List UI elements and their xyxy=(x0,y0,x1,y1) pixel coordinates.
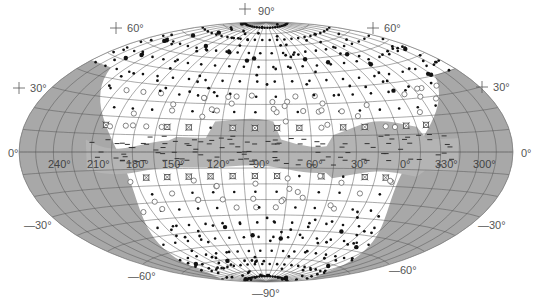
filled-dot-symbol xyxy=(255,74,258,77)
filled-dot-symbol xyxy=(284,54,287,57)
filled-dot-symbol xyxy=(220,35,223,38)
filled-dot-symbol xyxy=(228,236,231,239)
filled-dot-symbol xyxy=(293,250,296,253)
dash-marker xyxy=(273,151,278,152)
dash-marker xyxy=(298,160,303,161)
open-circle-symbol xyxy=(415,86,420,91)
dash-marker xyxy=(172,152,177,153)
filled-dot-symbol xyxy=(108,84,111,87)
filled-dot-symbol xyxy=(315,49,318,52)
boxed-cross-symbol xyxy=(340,124,347,131)
lon-label-210: 210° xyxy=(87,158,110,170)
boxed-cross-symbol xyxy=(229,124,236,131)
filled-dot-symbol xyxy=(239,264,242,267)
filled-dot-symbol xyxy=(325,48,328,51)
filled-dot-symbol xyxy=(150,39,153,42)
filled-dot-symbol xyxy=(325,223,328,226)
filled-dot-symbol xyxy=(316,64,319,67)
filled-dot-symbol xyxy=(254,256,257,259)
dash-marker xyxy=(220,147,225,148)
dash-marker xyxy=(125,144,130,145)
open-circle-symbol xyxy=(273,205,278,210)
filled-dot-symbol xyxy=(351,208,354,211)
dash-marker xyxy=(161,147,166,148)
filled-dot-symbol xyxy=(178,93,181,96)
dash-marker xyxy=(365,143,370,144)
open-circle-symbol xyxy=(141,89,146,94)
filled-dot-symbol xyxy=(276,263,279,266)
filled-dot-symbol xyxy=(314,207,317,210)
filled-dot-symbol xyxy=(345,52,349,56)
dash-marker xyxy=(385,135,390,136)
dash-marker xyxy=(314,141,319,142)
dash-marker xyxy=(416,135,421,136)
lat-label-plus-90: 90° xyxy=(252,5,275,17)
dash-marker xyxy=(153,149,158,150)
filled-dot-symbol xyxy=(313,94,316,97)
filled-dot-symbol xyxy=(386,50,389,53)
filled-dot-symbol xyxy=(228,250,231,253)
filled-dot-symbol xyxy=(239,222,242,225)
filled-dot-symbol xyxy=(204,79,207,82)
filled-dot-symbol xyxy=(204,44,208,48)
dash-marker xyxy=(237,152,242,153)
open-circle-symbol xyxy=(279,199,284,204)
filled-dot-symbol xyxy=(142,73,145,76)
dash-marker xyxy=(193,151,198,152)
filled-dot-symbol xyxy=(257,32,260,35)
filled-dot-symbol xyxy=(274,275,277,278)
filled-dot-symbol xyxy=(258,26,261,29)
filled-dot-symbol xyxy=(198,235,201,238)
filled-dot-symbol xyxy=(141,51,144,54)
filled-dot-symbol xyxy=(401,70,404,73)
filled-dot-symbol xyxy=(128,70,131,73)
filled-dot-symbol xyxy=(139,53,143,57)
filled-dot-symbol xyxy=(191,192,194,195)
filled-dot-symbol xyxy=(270,52,273,55)
filled-dot-symbol xyxy=(259,274,262,277)
lon-label-300: 300° xyxy=(473,158,496,170)
dash-marker xyxy=(386,160,391,161)
filled-dot-symbol xyxy=(342,78,345,81)
filled-dot-symbol xyxy=(351,257,354,260)
filled-dot-symbol xyxy=(284,276,288,280)
open-circle-symbol xyxy=(107,124,112,129)
filled-dot-symbol xyxy=(342,224,345,227)
filled-dot-symbol xyxy=(291,221,294,224)
filled-dot-symbol xyxy=(191,33,195,37)
boxed-cross-symbol xyxy=(423,121,430,128)
filled-dot-symbol xyxy=(309,268,312,271)
filled-dot-symbol xyxy=(200,63,203,66)
filled-dot-symbol xyxy=(228,65,231,68)
filled-dot-symbol xyxy=(316,237,319,240)
filled-dot-symbol xyxy=(298,175,301,178)
filled-dot-symbol xyxy=(222,267,225,270)
filled-dot-symbol xyxy=(310,275,313,278)
filled-dot-symbol xyxy=(369,62,373,66)
open-circle-symbol xyxy=(234,94,239,99)
filled-dot-symbol xyxy=(319,41,322,44)
filled-dot-symbol xyxy=(272,236,275,239)
dash-marker xyxy=(320,143,325,144)
dash-marker xyxy=(427,134,432,135)
open-circle-symbol xyxy=(131,111,136,116)
filled-dot-symbol xyxy=(216,95,219,98)
filled-dot-symbol xyxy=(254,276,257,279)
dash-marker xyxy=(371,147,376,148)
filled-dot-symbol xyxy=(197,94,200,97)
filled-dot-symbol xyxy=(225,251,228,254)
filled-dot-symbol xyxy=(243,236,246,239)
open-circle-symbol xyxy=(214,183,219,188)
open-circle-symbol xyxy=(200,114,205,119)
boxed-cross-symbol xyxy=(296,124,303,131)
open-circle-symbol xyxy=(285,176,290,181)
filled-dot-symbol xyxy=(332,46,335,49)
filled-dot-symbol xyxy=(296,111,299,114)
filled-dot-symbol xyxy=(172,40,175,43)
filled-dot-symbol xyxy=(174,241,177,244)
filled-dot-symbol xyxy=(109,87,112,90)
filled-dot-symbol xyxy=(188,78,191,81)
filled-dot-symbol xyxy=(343,240,346,243)
filled-dot-symbol xyxy=(355,241,358,244)
filled-dot-symbol xyxy=(204,223,207,226)
